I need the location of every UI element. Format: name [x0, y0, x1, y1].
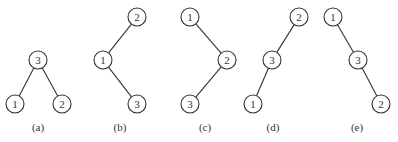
- tree-node: 2: [372, 95, 390, 113]
- tree-node: 2: [290, 8, 308, 26]
- tree-node: 3: [29, 51, 47, 69]
- tree-edge: [196, 24, 221, 53]
- node-value: 2: [378, 98, 384, 110]
- labels-layer: (a)(b)(c)(d)(e): [32, 121, 364, 134]
- node-value: 2: [134, 11, 140, 23]
- edges-layer: [19, 24, 377, 97]
- tree-edge: [362, 68, 377, 96]
- tree-node: 1: [6, 95, 24, 113]
- tree-node: 3: [128, 95, 146, 113]
- tree-edge: [338, 25, 354, 52]
- node-value: 3: [35, 54, 41, 66]
- node-value: 2: [296, 11, 302, 23]
- node-value: 1: [250, 98, 256, 110]
- tree-node: 1: [181, 8, 199, 26]
- nodes-layer: 312213123231132: [6, 8, 390, 113]
- tree-edge: [109, 67, 132, 97]
- tree-edge: [196, 67, 221, 97]
- node-value: 1: [100, 54, 106, 66]
- node-value: 2: [224, 54, 230, 66]
- node-value: 3: [187, 98, 193, 110]
- tree-node: 1: [94, 51, 112, 69]
- tree-node: 1: [244, 95, 262, 113]
- tree-caption: (b): [114, 121, 127, 134]
- node-value: 1: [330, 11, 336, 23]
- tree-node: 2: [128, 8, 146, 26]
- node-value: 1: [187, 11, 193, 23]
- tree-caption: (c): [199, 121, 212, 134]
- tree-node: 3: [181, 95, 199, 113]
- tree-caption: (d): [267, 121, 280, 134]
- bst-diagram: 312213123231132 (a)(b)(c)(d)(e): [0, 0, 398, 142]
- tree-edge: [19, 68, 34, 96]
- node-value: 3: [269, 54, 275, 66]
- bst-diagram-canvas: 312213123231132 (a)(b)(c)(d)(e): [0, 0, 398, 142]
- tree-caption: (e): [351, 121, 364, 134]
- node-value: 2: [59, 98, 65, 110]
- tree-edge: [257, 68, 269, 95]
- tree-node: 2: [218, 51, 236, 69]
- node-value: 3: [355, 54, 361, 66]
- tree-edge: [109, 24, 132, 53]
- tree-node: 2: [53, 95, 71, 113]
- tree-edge: [42, 68, 57, 96]
- tree-node: 3: [349, 51, 367, 69]
- node-value: 3: [134, 98, 140, 110]
- tree-edge: [277, 25, 294, 53]
- tree-node: 1: [324, 8, 342, 26]
- node-value: 1: [12, 98, 18, 110]
- tree-node: 3: [263, 51, 281, 69]
- tree-caption: (a): [32, 121, 45, 134]
